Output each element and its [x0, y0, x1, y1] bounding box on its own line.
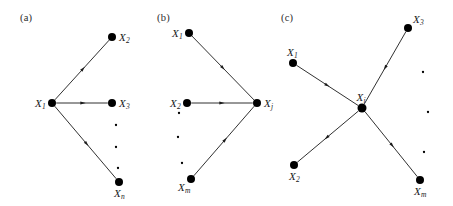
node-label-n_b_xm: Xm [178, 181, 190, 193]
node-label-n_c_hub: Xi [357, 91, 366, 103]
node-label-n_b_x1: X1 [172, 27, 182, 39]
ellipsis-dot-c-1 [427, 111, 429, 113]
node-n_c_x3[interactable] [404, 24, 412, 32]
node-label-n_c_xm: Xm [414, 185, 426, 197]
ellipsis-dot-c-2 [423, 151, 425, 153]
node-n_c_x2[interactable] [290, 161, 298, 169]
node-label-n_a_x2: X2 [119, 31, 129, 43]
node-n_a_hub[interactable] [48, 99, 56, 107]
ellipsis-dot-b-1 [177, 136, 179, 138]
node-n_b_hub[interactable] [253, 99, 261, 107]
arrowhead-n_a_hub-to-n_a_x3 [80, 102, 85, 105]
node-label-n_c_x2: X2 [289, 170, 299, 182]
ellipsis-dot-a-1 [115, 146, 117, 148]
node-n_c_xm[interactable] [416, 176, 424, 184]
node-n_b_x1[interactable] [185, 29, 193, 37]
node-label-n_c_x3: X3 [413, 13, 423, 25]
ellipsis-dot-c-0 [422, 71, 424, 73]
node-label-n_a_hub: X1 [35, 97, 45, 109]
panel-caption-a: (a) [20, 12, 32, 23]
node-label-n_b_hub: Xj [264, 97, 273, 109]
arrowhead-n_c_x1-to-n_c_hub [324, 83, 329, 87]
node-label-n_c_x1: X1 [287, 46, 297, 58]
ellipsis-dot-a-0 [115, 124, 117, 126]
panel-caption-c: (c) [281, 12, 293, 23]
arrowhead-n_b_x2-to-n_b_hub [219, 102, 224, 105]
node-label-n_a_xn: Xn [114, 187, 124, 199]
panel-caption-b: (b) [157, 12, 170, 23]
panel-a [48, 33, 123, 186]
figure-canvas: X1X2X3XnX1X2XmXjX1X2X3XmXi(a)(b)(c) [0, 0, 453, 206]
arrowhead-n_c_x3-to-n_c_hub [384, 65, 388, 70]
node-label-n_b_x2: X2 [170, 97, 180, 109]
node-n_a_x2[interactable] [108, 33, 116, 41]
node-n_b_x2[interactable] [183, 99, 191, 107]
panel-c [289, 24, 429, 184]
ellipsis-dot-b-2 [181, 162, 183, 164]
node-n_a_x3[interactable] [108, 99, 116, 107]
node-n_c_x1[interactable] [289, 59, 297, 67]
directed-graph-svg [0, 0, 453, 206]
node-n_a_xn[interactable] [115, 178, 123, 186]
node-label-n_a_x3: X3 [119, 97, 129, 109]
panel-b [177, 29, 261, 183]
ellipsis-dot-b-0 [178, 112, 180, 114]
ellipsis-dot-a-2 [117, 167, 119, 169]
